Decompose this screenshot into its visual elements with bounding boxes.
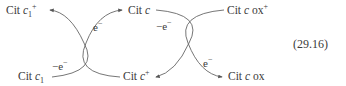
species-charge: + <box>263 2 268 11</box>
species-prefix: Cit <box>6 4 23 16</box>
species-cit-c: Cit c <box>128 4 150 16</box>
species-subscript: 1 <box>28 10 32 19</box>
electron-gain-label-left: e− <box>93 21 102 33</box>
electron-charge: − <box>167 18 172 27</box>
species-prefix: Cit <box>18 70 35 82</box>
electron-charge: − <box>98 19 103 28</box>
species-prefix: Cit <box>227 4 244 16</box>
equation-number: (29.16) <box>293 37 328 51</box>
species-cit-c-ox-plus: Cit c ox+ <box>227 4 268 16</box>
species-charge: + <box>145 68 150 77</box>
arc-c-from-cplus <box>83 10 122 77</box>
electron-charge: − <box>63 58 68 67</box>
species-cit-c-plus: Cit c+ <box>123 70 150 82</box>
electron-loss-label-left: −e− <box>52 60 68 72</box>
species-cit-c1: Cit c1 <box>18 70 44 82</box>
species-suffix: ox <box>249 4 263 16</box>
species-prefix: Cit <box>128 4 145 16</box>
electron-charge: − <box>208 55 213 64</box>
electron-gain-label-right: e− <box>203 57 212 69</box>
species-prefix: Cit <box>123 70 140 82</box>
species-suffix: ox <box>250 70 264 82</box>
coupled-redox-reaction-diagram: Cit c1+ Cit c1 Cit c Cit c+ Cit c ox+ Ci… <box>0 0 346 86</box>
species-cit-c1-plus: Cit c1+ <box>6 4 37 16</box>
species-subscript: 1 <box>40 76 44 85</box>
species-prefix: Cit <box>228 70 245 82</box>
species-variable: c <box>145 4 150 16</box>
species-charge: + <box>32 2 37 11</box>
species-cit-c-ox: Cit c ox <box>228 70 264 82</box>
electron-loss-label-right: −e− <box>156 20 172 32</box>
